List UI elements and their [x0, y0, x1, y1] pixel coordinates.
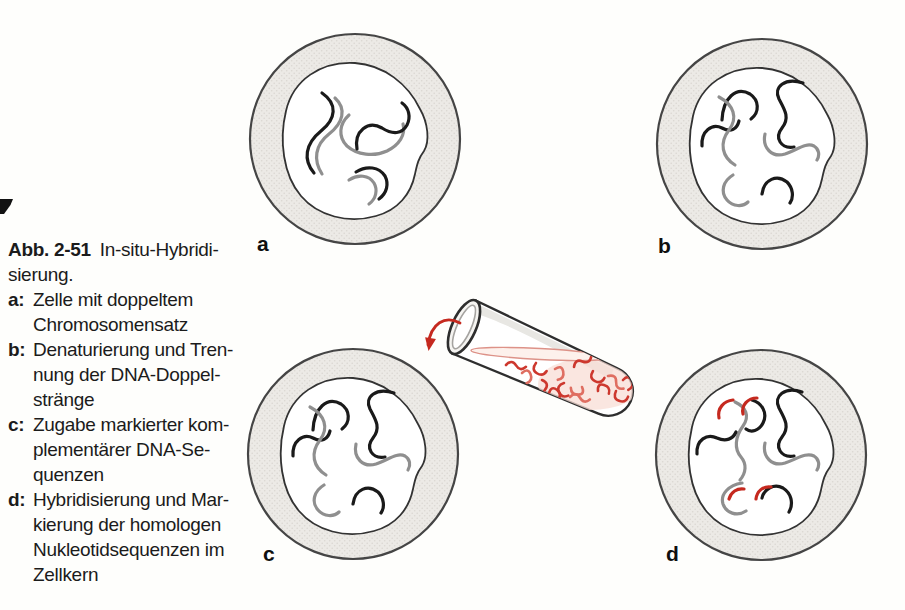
cell-b-diagram: [650, 32, 874, 256]
figure-page: Abb. 2-51In-situ-Hybridi- sierung. a: Ze…: [0, 0, 905, 610]
panel-label-b: b: [658, 234, 671, 258]
caption-item-d: d: Hybridisierung und Mar- kierung der h…: [8, 487, 254, 587]
caption-item-b: b: Denaturierung und Tren- nung der DNA-…: [8, 337, 254, 412]
figure-caption: Abb. 2-51In-situ-Hybridi- sierung. a: Ze…: [8, 237, 254, 587]
cell-d-diagram: [649, 343, 873, 567]
caption-item-c-label: c:: [8, 412, 24, 437]
caption-item-d-text: Hybridisierung und Mar- kierung der homo…: [33, 489, 229, 585]
caption-head: Abb. 2-51In-situ-Hybridi- sierung.: [8, 237, 254, 287]
scan-edge-artifact: [0, 199, 14, 215]
test-tube-group: [390, 272, 650, 432]
caption-item-a-text: Zelle mit doppeltem Chromosomensatz: [33, 289, 193, 335]
cell-a-diagram: [243, 27, 467, 251]
caption-item-c-text: Zugabe markierter kom- plementärer DNA-S…: [33, 414, 229, 485]
caption-item-b-text: Denaturierung und Tren- nung der DNA-Dop…: [33, 339, 233, 410]
caption-item-a: a: Zelle mit doppeltem Chromosomensatz: [8, 287, 254, 337]
figure-number: Abb. 2-51: [8, 239, 91, 260]
panel-label-d: d: [666, 542, 679, 566]
panel-label-c: c: [263, 542, 275, 566]
scan-edge-artifact-shape: [0, 199, 13, 214]
test-tube: [441, 296, 642, 428]
caption-item-b-label: b:: [8, 337, 25, 362]
caption-item-c: c: Zugabe markierter kom- plementärer DN…: [8, 412, 254, 487]
test-tube-contents: [471, 345, 642, 410]
caption-item-a-label: a:: [8, 287, 24, 312]
test-tube-body: [452, 301, 642, 428]
panel-label-a: a: [257, 232, 269, 256]
pour-arrow-head: [423, 337, 436, 352]
caption-item-d-label: d:: [8, 487, 25, 512]
probe-solution-glow: [538, 358, 642, 410]
